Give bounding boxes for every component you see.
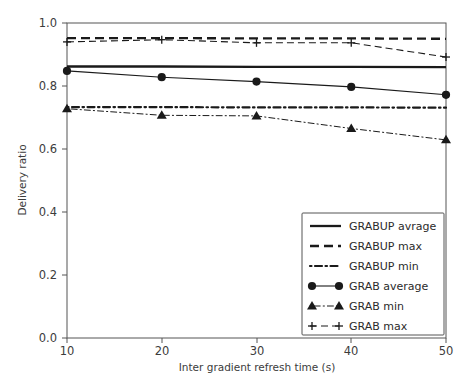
legend-marker-circle-left	[308, 282, 316, 290]
y-tick-label-5: 1.0	[39, 16, 57, 30]
y-tick-label-0: 0.0	[39, 331, 57, 345]
y-tick-label-3: 0.6	[39, 142, 57, 156]
x-tick-label-3: 40	[344, 344, 359, 358]
x-axis-title: Inter gradient refresh time (s)	[179, 361, 336, 373]
legend-label-4: GRAB min	[349, 300, 404, 313]
x-tick-label-2: 30	[250, 344, 265, 358]
delivery-ratio-line-chart: 0.0 0.2 0.4 0.6 0.8 1.0 10 20 30 40 50 I…	[0, 0, 472, 378]
y-axis-title: Delivery ratio	[16, 144, 28, 215]
x-tick-label-0: 10	[60, 344, 75, 358]
chart-legend[interactable]: GRABUP avrage GRABUP max GRABUP min GRAB…	[302, 213, 444, 335]
x-tick-label-1: 20	[155, 344, 170, 358]
y-tick-label-2: 0.4	[39, 205, 57, 219]
series-line-grabup-max	[67, 38, 446, 39]
legend-label-3: GRAB average	[349, 280, 429, 293]
series-line-grabup-avrage	[67, 67, 446, 68]
chart-figure: 0.0 0.2 0.4 0.6 0.8 1.0 10 20 30 40 50 I…	[0, 0, 472, 378]
legend-label-0: GRABUP avrage	[349, 220, 436, 233]
x-tick-label-4: 50	[439, 344, 454, 358]
y-tick-label-4: 0.8	[39, 79, 57, 93]
legend-label-5: GRAB max	[349, 320, 408, 333]
legend-label-2: GRABUP min	[349, 260, 419, 273]
y-tick-label-1: 0.2	[39, 268, 57, 282]
legend-label-1: GRABUP max	[349, 240, 422, 253]
legend-marker-circle-right	[335, 282, 343, 290]
